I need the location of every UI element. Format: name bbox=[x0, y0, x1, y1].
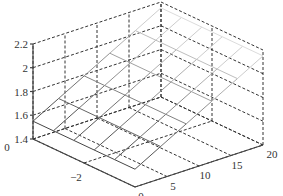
x-tick-label: 5 bbox=[170, 180, 176, 192]
tick-labels: 1.41.61.822.20−2−405101520 bbox=[4, 38, 278, 196]
x-tick-label: 15 bbox=[232, 159, 244, 171]
surface-plot: 1.41.61.822.20−2−405101520 bbox=[0, 0, 283, 196]
z-tick-label: 2 bbox=[23, 62, 29, 74]
z-tick-label: 1.6 bbox=[14, 109, 28, 121]
z-tick-label: 1.8 bbox=[14, 86, 28, 98]
back-grid bbox=[33, 2, 263, 187]
z-tick-label: 1.4 bbox=[14, 133, 28, 145]
x-tick-label: 20 bbox=[267, 148, 279, 160]
z-tick-label: 2.2 bbox=[14, 38, 28, 50]
y-tick-label: −2 bbox=[70, 171, 82, 183]
surface-mesh bbox=[33, 8, 263, 169]
x-tick-label: 10 bbox=[200, 169, 212, 181]
y-tick-label: 0 bbox=[4, 141, 10, 153]
x-tick-label: 0 bbox=[138, 190, 144, 196]
y-tick-label: −4 bbox=[121, 195, 133, 196]
